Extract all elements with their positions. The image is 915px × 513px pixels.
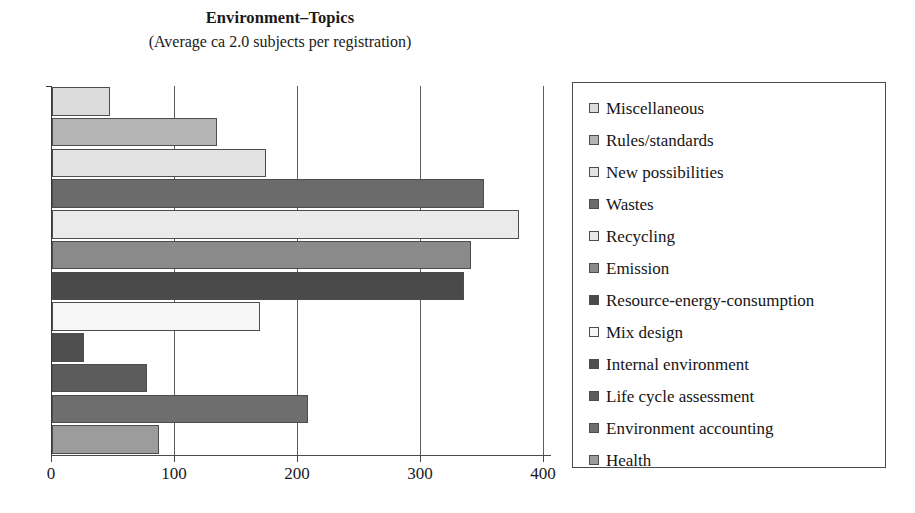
- bar: [52, 364, 147, 392]
- bar: [52, 302, 260, 330]
- legend-item-label: Recycling: [606, 228, 675, 245]
- bar: [52, 272, 464, 300]
- legend-item[interactable]: Environment accounting: [589, 412, 875, 444]
- legend-list: MiscellaneousRules/standardsNew possibil…: [589, 92, 875, 476]
- legend-swatch-icon: [589, 327, 599, 337]
- bar: [52, 149, 266, 177]
- x-axis-tick: [174, 455, 175, 462]
- legend: MiscellaneousRules/standardsNew possibil…: [572, 82, 886, 468]
- legend-swatch-icon: [589, 359, 599, 369]
- x-axis-line: [51, 455, 551, 456]
- legend-item-label: Rules/standards: [606, 132, 714, 149]
- x-axis-tick: [543, 455, 544, 462]
- bar: [52, 118, 217, 146]
- legend-item-label: Wastes: [606, 196, 654, 213]
- bar: [52, 425, 159, 453]
- legend-item-label: Mix design: [606, 324, 683, 341]
- legend-swatch-icon: [589, 455, 599, 465]
- x-axis-tick-label: 300: [390, 464, 450, 484]
- gridline: [420, 86, 421, 455]
- legend-item-label: Internal environment: [606, 356, 749, 373]
- legend-item[interactable]: Emission: [589, 252, 875, 284]
- legend-item-label: Health: [606, 452, 651, 469]
- legend-swatch-icon: [589, 263, 599, 273]
- x-axis-tick-label: 0: [21, 464, 81, 484]
- legend-item[interactable]: Resource-energy-consumption: [589, 284, 875, 316]
- legend-item-label: Emission: [606, 260, 669, 277]
- legend-item[interactable]: Mix design: [589, 316, 875, 348]
- bar: [52, 87, 110, 115]
- x-axis-tick-label: 400: [513, 464, 573, 484]
- legend-swatch-icon: [589, 295, 599, 305]
- bar: [52, 241, 471, 269]
- gridline: [543, 86, 544, 455]
- legend-swatch-icon: [589, 423, 599, 433]
- legend-item[interactable]: Recycling: [589, 220, 875, 252]
- legend-item[interactable]: Internal environment: [589, 348, 875, 380]
- legend-swatch-icon: [589, 199, 599, 209]
- legend-item[interactable]: Miscellaneous: [589, 92, 875, 124]
- x-axis-tick: [420, 455, 421, 462]
- legend-item-label: Resource-energy-consumption: [606, 292, 814, 309]
- legend-item-label: Life cycle assessment: [606, 388, 754, 405]
- legend-item[interactable]: New possibilities: [589, 156, 875, 188]
- legend-item-label: New possibilities: [606, 164, 724, 181]
- legend-item[interactable]: Wastes: [589, 188, 875, 220]
- legend-swatch-icon: [589, 391, 599, 401]
- y-axis-top-tick: [46, 86, 51, 87]
- x-axis-tick-label: 100: [144, 464, 204, 484]
- bar: [52, 210, 519, 238]
- bar: [52, 179, 484, 207]
- legend-swatch-icon: [589, 135, 599, 145]
- bar: [52, 333, 84, 361]
- legend-item-label: Miscellaneous: [606, 100, 704, 117]
- legend-swatch-icon: [589, 167, 599, 177]
- x-axis-tick-label: 200: [267, 464, 327, 484]
- legend-item[interactable]: Health: [589, 444, 875, 476]
- x-axis-tick: [297, 455, 298, 462]
- legend-swatch-icon: [589, 103, 599, 113]
- x-axis-tick: [51, 455, 52, 462]
- legend-item[interactable]: Rules/standards: [589, 124, 875, 156]
- plot-area: 0100200300400: [51, 86, 543, 455]
- legend-swatch-icon: [589, 231, 599, 241]
- legend-item-label: Environment accounting: [606, 420, 774, 437]
- chart-title: Environment–Topics: [0, 8, 560, 28]
- bar: [52, 395, 308, 423]
- legend-item[interactable]: Life cycle assessment: [589, 380, 875, 412]
- chart-subtitle: (Average ca 2.0 subjects per registratio…: [0, 33, 560, 51]
